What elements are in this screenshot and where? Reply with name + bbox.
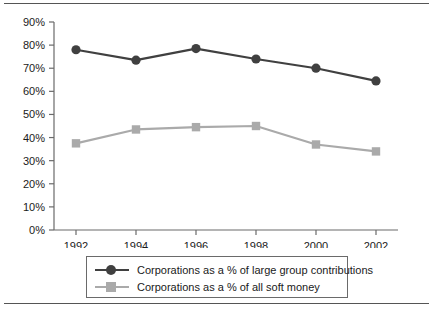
svg-text:20%: 20% [23, 178, 45, 190]
svg-text:80%: 80% [23, 39, 45, 51]
legend-label-all-soft-money: Corporations as a % of all soft money [137, 280, 320, 294]
legend-label-large-group-contributions: Corporations as a % of large group contr… [137, 263, 373, 277]
plot-area: 0%10%20%30%40%50%60%70%80%90%19921994199… [0, 8, 433, 248]
top-divider-rule [4, 3, 429, 4]
legend-key-light-square [93, 280, 131, 294]
svg-text:1998: 1998 [244, 240, 268, 248]
svg-text:2000: 2000 [304, 240, 328, 248]
svg-text:1996: 1996 [184, 240, 208, 248]
figure: 0%10%20%30%40%50%60%70%80%90%19921994199… [0, 0, 433, 318]
svg-text:2002: 2002 [364, 240, 388, 248]
legend-item-all-soft-money: Corporations as a % of all soft money [93, 279, 341, 295]
svg-text:10%: 10% [23, 201, 45, 213]
svg-text:30%: 30% [23, 155, 45, 167]
svg-text:1994: 1994 [124, 240, 148, 248]
line-chart: 0%10%20%30%40%50%60%70%80%90%19921994199… [0, 8, 433, 248]
legend-item-large-group-contributions: Corporations as a % of large group contr… [93, 262, 341, 278]
svg-text:60%: 60% [23, 85, 45, 97]
legend-key-dark-circle [93, 263, 131, 277]
svg-text:0%: 0% [29, 224, 45, 236]
svg-text:90%: 90% [23, 16, 45, 28]
svg-text:50%: 50% [23, 108, 45, 120]
svg-text:1992: 1992 [64, 240, 88, 248]
bottom-divider-rule [4, 303, 429, 304]
svg-text:40%: 40% [23, 132, 45, 144]
svg-text:70%: 70% [23, 62, 45, 74]
chart-legend: Corporations as a % of large group contr… [86, 256, 348, 298]
